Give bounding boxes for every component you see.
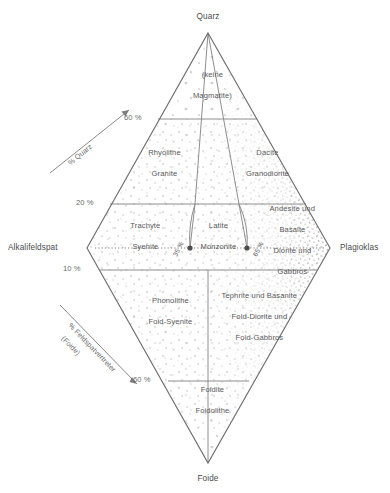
field-keine-magmatite-line2: Magmatite) (193, 90, 232, 99)
field-tephrite-line1: Tephrite und Basanite (222, 291, 298, 300)
field-dacite-granodiorite-line1: Dacite (256, 147, 278, 156)
field-andesite-line1: Andesite und (269, 203, 315, 212)
field-phonolithe-line1: Phonolithe (152, 295, 189, 304)
field-latite-monzonite-line2: Monzonite (200, 241, 236, 250)
field-foidite-line2: Foidolithe (195, 405, 229, 414)
tick-label-foide-10: 10 % (63, 264, 81, 275)
field-foidite-line1: Foidite (201, 384, 225, 393)
axis-arrow-quarz (50, 110, 129, 173)
qapf-diagram: Quarz Alkalifeldspat Plagioklas Foide 60… (0, 0, 390, 493)
vertex-label-foide: Foide (198, 474, 219, 485)
field-keine-magmatite-line1: (keine (202, 69, 223, 78)
field-tephrite-line3: Foid-Gabbros (236, 333, 284, 342)
tick-label-quarz-20: 20 % (76, 198, 94, 209)
field-trachyte-syenite: Trachyte Syenite (122, 210, 161, 263)
field-keine-magmatite: (keine Magmatite) (184, 59, 232, 112)
field-foidite-foidolithe: Foidite Foidolithe (187, 374, 230, 427)
field-phonolithe-line2: Foid-Syenite (149, 316, 193, 325)
field-latite-monzonite: Latite Monzonite (192, 210, 237, 263)
tick-label-quarz-60: 60 % (124, 113, 142, 124)
field-tephrite-basanite: Tephrite und Basanite Foid-Diorite und F… (213, 280, 297, 354)
field-dacite-granodiorite: Dacite Granodiorite (237, 137, 289, 190)
tick-label-foide-60: 60 % (133, 375, 151, 386)
node-65-percent (244, 245, 249, 250)
field-dacite-granodiorite-line2: Granodiorite (246, 168, 289, 177)
field-tephrite-line2: Foid-Diorite und (232, 312, 288, 321)
field-andesite-basalte-diorite-gabbros: Andesite und Basalte Diorite und Gabbros (261, 193, 315, 288)
field-phonolithe-foid-syenite: Phonolithe Foid-Syenite (140, 285, 193, 338)
field-latite-monzonite-line1: Latite (209, 220, 228, 229)
vertex-label-plagioklas: Plagioklas (340, 243, 378, 254)
vertex-label-alkalifeldspat: Alkalifeldspat (8, 243, 58, 254)
field-rhyolithe-granite: Rhyolithe Granite (139, 137, 180, 190)
field-rhyolithe-granite-line2: Granite (152, 168, 178, 177)
field-trachyte-syenite-line1: Trachyte (130, 220, 160, 229)
vertex-label-quarz: Quarz (197, 12, 220, 23)
field-trachyte-syenite-line2: Syenite (132, 241, 158, 250)
field-andesite-line3: Diorite und (274, 245, 312, 254)
field-andesite-line2: Basalte (279, 224, 305, 233)
field-andesite-line4: Gabbros (278, 266, 308, 275)
field-rhyolithe-granite-line1: Rhyolithe (148, 147, 181, 156)
